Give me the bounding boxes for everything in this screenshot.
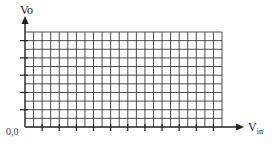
y-axis-label: Vo: [20, 3, 33, 18]
origin-label: 0,0: [6, 126, 19, 137]
x-axis-label-main: V: [248, 120, 257, 134]
x-axis-label-sub: in: [257, 127, 263, 136]
blank-graph-grid: [0, 0, 272, 147]
x-axis-label: Vin: [248, 120, 263, 136]
x-axis-arrow-icon: [236, 124, 244, 131]
